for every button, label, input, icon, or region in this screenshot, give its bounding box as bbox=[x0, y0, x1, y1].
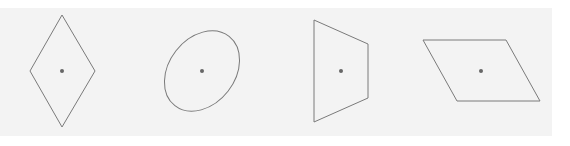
parallelogram-shape bbox=[423, 40, 540, 101]
rhombus-shape bbox=[30, 15, 95, 127]
diagram-canvas bbox=[0, 0, 570, 146]
trapezoid-shape bbox=[314, 20, 368, 122]
ellipse-shape bbox=[149, 16, 255, 126]
shapes-svg bbox=[0, 0, 570, 146]
